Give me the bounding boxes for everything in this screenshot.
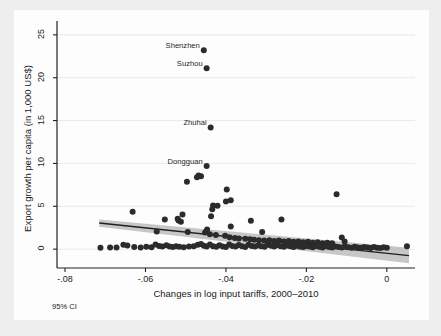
- y-tick-label: 20: [36, 65, 46, 89]
- x-tick-label: 0: [372, 274, 402, 284]
- x-tick-label: -.04: [211, 274, 241, 284]
- y-axis-title: Export growth per capita (in 1,000 US$): [22, 49, 33, 249]
- figure-root: 0510152025-.08-.06-.04-.020 ShenzhenSuzh…: [0, 0, 441, 336]
- x-axis-title: Changes in log input tariffs, 2000–2010: [57, 288, 415, 299]
- point-label-zhuhai: Zhuhai: [155, 118, 207, 127]
- y-tick-label: 5: [36, 193, 46, 217]
- y-tick-label: 0: [36, 236, 46, 260]
- y-tick-label: 10: [36, 150, 46, 174]
- point-label-suzhou: Suzhou: [151, 59, 203, 68]
- x-tick-label: -.08: [50, 274, 80, 284]
- y-tick-label: 15: [36, 108, 46, 132]
- point-label-dongguan: Dongguan: [151, 157, 203, 166]
- ci-note: 95% CI: [52, 302, 77, 311]
- y-tick-label: 25: [36, 22, 46, 46]
- gridlines: [57, 35, 415, 249]
- scatter-plot: [0, 0, 441, 336]
- point-label-shenzhen: Shenzhen: [148, 41, 200, 50]
- x-tick-label: -.02: [291, 274, 321, 284]
- x-tick-label: -.06: [130, 274, 160, 284]
- axis-lines: [57, 21, 415, 268]
